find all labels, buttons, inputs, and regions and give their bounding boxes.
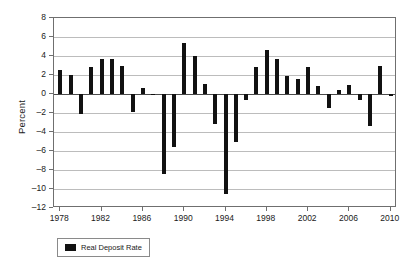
x-tick-mark bbox=[59, 207, 60, 211]
bar-1997 bbox=[254, 67, 258, 94]
bar-1984 bbox=[120, 66, 124, 95]
bar-1992 bbox=[203, 84, 207, 94]
x-tick-label: 1990 bbox=[166, 213, 200, 223]
x-tick-label: 2002 bbox=[290, 213, 324, 223]
y-axis-title: Percent bbox=[16, 82, 27, 152]
bar-2005 bbox=[337, 90, 341, 94]
bar-1988 bbox=[162, 94, 166, 174]
bar-2007 bbox=[358, 94, 362, 100]
x-tick-mark bbox=[390, 207, 391, 211]
y-tick-label: –2 bbox=[37, 107, 46, 117]
x-tick-label: 2006 bbox=[331, 213, 365, 223]
y-tick-mark bbox=[49, 169, 53, 170]
bar-2008 bbox=[368, 94, 372, 126]
bar-2000 bbox=[285, 76, 289, 94]
x-tick-label: 1994 bbox=[208, 213, 242, 223]
bar-1983 bbox=[110, 59, 114, 94]
bar-1985 bbox=[131, 94, 135, 112]
x-tick-mark bbox=[266, 207, 267, 211]
bar-2006 bbox=[347, 85, 351, 95]
bar-2010 bbox=[389, 94, 393, 96]
bar-2002 bbox=[306, 67, 310, 94]
bar-2001 bbox=[296, 79, 300, 94]
bar-1999 bbox=[275, 59, 279, 94]
x-tick-mark bbox=[348, 207, 349, 211]
x-tick-mark bbox=[183, 207, 184, 211]
legend-swatch-real-deposit-rate bbox=[65, 244, 76, 251]
y-tick-label: –12 bbox=[32, 202, 46, 212]
x-tick-label: 1998 bbox=[249, 213, 283, 223]
y-tick-mark bbox=[49, 93, 53, 94]
x-tick-label: 1982 bbox=[84, 213, 118, 223]
gridline bbox=[54, 75, 395, 76]
y-tick-mark bbox=[49, 74, 53, 75]
y-tick-label: 6 bbox=[41, 31, 46, 41]
bar-1989 bbox=[172, 94, 176, 147]
bar-2003 bbox=[316, 86, 320, 94]
bar-1986 bbox=[141, 88, 145, 94]
x-tick-mark bbox=[142, 207, 143, 211]
bar-1978 bbox=[58, 70, 62, 94]
bar-1993 bbox=[213, 94, 217, 124]
x-tick-mark bbox=[101, 207, 102, 211]
gridline bbox=[54, 56, 395, 57]
y-tick-label: 4 bbox=[41, 50, 46, 60]
y-tick-mark bbox=[49, 188, 53, 189]
y-tick-label: –10 bbox=[32, 183, 46, 193]
bar-2004 bbox=[327, 94, 331, 108]
x-tick-mark bbox=[225, 207, 226, 211]
x-tick-label: 1978 bbox=[42, 213, 76, 223]
legend-label-real-deposit-rate: Real Deposit Rate bbox=[81, 243, 142, 252]
x-tick-label: 2010 bbox=[373, 213, 407, 223]
gridline bbox=[54, 37, 395, 38]
bar-1990 bbox=[182, 43, 186, 94]
chart-figure: Percent Real Deposit Rate 86420–2–4–6–8–… bbox=[0, 0, 414, 270]
bar-1979 bbox=[69, 75, 73, 94]
bar-1981 bbox=[89, 67, 93, 94]
bar-1991 bbox=[193, 56, 197, 94]
bar-1982 bbox=[100, 59, 104, 94]
bar-1994 bbox=[224, 94, 228, 194]
y-tick-label: –6 bbox=[37, 145, 46, 155]
y-tick-mark bbox=[49, 17, 53, 18]
x-tick-label: 1986 bbox=[125, 213, 159, 223]
bar-1995 bbox=[234, 94, 238, 142]
bar-1980 bbox=[79, 94, 83, 114]
plot-area bbox=[53, 17, 396, 207]
bar-1998 bbox=[265, 50, 269, 94]
y-tick-mark bbox=[49, 112, 53, 113]
bar-1996 bbox=[244, 94, 248, 100]
bar-2009 bbox=[378, 66, 382, 95]
y-tick-mark bbox=[49, 36, 53, 37]
y-tick-mark bbox=[49, 207, 53, 208]
y-tick-mark bbox=[49, 131, 53, 132]
y-tick-mark bbox=[49, 150, 53, 151]
y-tick-label: 2 bbox=[41, 69, 46, 79]
chart-legend[interactable]: Real Deposit Rate bbox=[57, 238, 150, 257]
y-tick-label: –4 bbox=[37, 126, 46, 136]
x-tick-mark bbox=[307, 207, 308, 211]
y-tick-mark bbox=[49, 55, 53, 56]
y-tick-label: 0 bbox=[41, 88, 46, 98]
y-tick-label: 8 bbox=[41, 12, 46, 22]
bar-1987 bbox=[151, 94, 155, 95]
y-tick-label: –8 bbox=[37, 164, 46, 174]
